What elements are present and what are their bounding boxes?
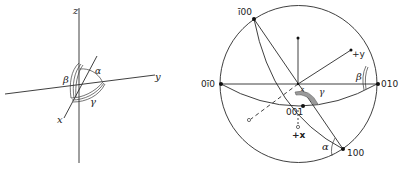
pole-100 (341, 147, 345, 151)
pole-0bar10-label: 0ī0 (201, 79, 215, 89)
x-axis-label: x (57, 114, 63, 125)
beta-arc (70, 63, 83, 98)
crystal-axes-diagram: z y x α β γ (0, 0, 399, 169)
plus-x-label: +x (292, 130, 306, 140)
gamma-label: γ (319, 87, 325, 97)
great-circle-x-y (221, 84, 377, 106)
alpha-label: α (322, 141, 329, 152)
beta-label: β (355, 71, 362, 82)
beta-arc-inner (365, 67, 368, 89)
plus-y-line (298, 50, 351, 84)
z-end-dot (297, 37, 300, 40)
y-axis (5, 75, 155, 94)
projected-point-open (247, 118, 250, 121)
left-axes-figure: z y x α β γ (5, 5, 161, 163)
small-z-label: z (300, 85, 305, 92)
x-axis (64, 56, 97, 118)
beta-label: β (62, 74, 69, 85)
pole-0bar10 (219, 82, 223, 86)
pole-100-label: 100 (347, 148, 364, 158)
center-dot (297, 83, 299, 85)
plus-x-open-point (296, 125, 299, 128)
pole-001-label: 001 (286, 107, 303, 117)
pole-010-label: 010 (381, 79, 398, 89)
alpha-label: α (95, 66, 101, 76)
z-axis-label: z (72, 5, 79, 16)
gamma-arc (295, 91, 318, 105)
pole-010 (376, 82, 380, 86)
y-axis-label: y (154, 71, 161, 82)
pole-bar100 (252, 17, 256, 21)
plus-y-label: +y (352, 49, 366, 59)
stereographic-projection: ī00 0ī0 010 100 001 +y +x z γ β α (201, 6, 398, 163)
pole-bar100-label: ī00 (237, 7, 252, 17)
gamma-label: γ (90, 96, 96, 107)
